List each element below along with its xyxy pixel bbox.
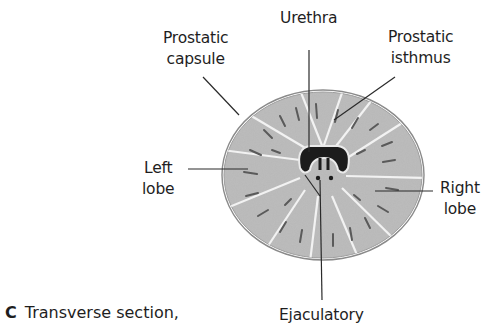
label-left-lobe: Left lobe: [142, 158, 174, 200]
prostate-gland-body: [220, 88, 426, 263]
prostate-transverse-section-figure: Urethra Prostatic capsule Prostatic isth…: [0, 0, 488, 327]
leader-prostatic-capsule: [203, 77, 239, 115]
label-ejaculatory: Ejaculatory: [279, 305, 364, 326]
label-prostatic-isthmus: Prostatic isthmus: [388, 27, 453, 69]
label-urethra: Urethra: [280, 8, 337, 29]
caption-text: Transverse section,: [25, 303, 179, 322]
panel-letter: C: [5, 303, 17, 322]
label-right-lobe: Right lobe: [440, 178, 480, 220]
label-prostatic-capsule: Prostatic capsule: [163, 28, 228, 70]
figure-caption: CTransverse section,: [5, 303, 179, 322]
